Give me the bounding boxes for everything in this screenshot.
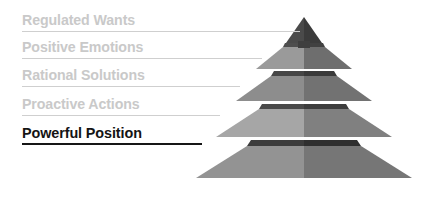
- pyramid-label-row-2: Positive Emotions: [0, 33, 262, 59]
- pyramid-label-row-3: Rational Solutions: [0, 61, 240, 87]
- leader-line-2: [22, 58, 262, 59]
- pyramid-diagram: Regulated Wants Positive Emotions Ration…: [0, 0, 441, 197]
- pyramid-label-powerful-position: Powerful Position: [22, 125, 142, 141]
- pyramid-label-row-5: Powerful Position: [0, 119, 202, 145]
- pyramid-label-row-1: Regulated Wants: [0, 6, 300, 32]
- leader-line-1: [22, 31, 300, 32]
- pyramid-label-row-4: Proactive Actions: [0, 90, 220, 116]
- pyramid-label-regulated-wants: Regulated Wants: [22, 12, 135, 28]
- pyramid-label-proactive-actions: Proactive Actions: [22, 96, 140, 112]
- pyramid-tier-base: [196, 140, 412, 178]
- pyramid-label-rational-solutions: Rational Solutions: [22, 67, 145, 83]
- pyramid-tier-middle: [236, 71, 372, 101]
- leader-line-5: [22, 143, 202, 145]
- leader-line-4: [22, 115, 220, 116]
- leader-line-3: [22, 86, 240, 87]
- pyramid-label-positive-emotions: Positive Emotions: [22, 39, 143, 55]
- pyramid-tier-lower-middle: [216, 104, 392, 137]
